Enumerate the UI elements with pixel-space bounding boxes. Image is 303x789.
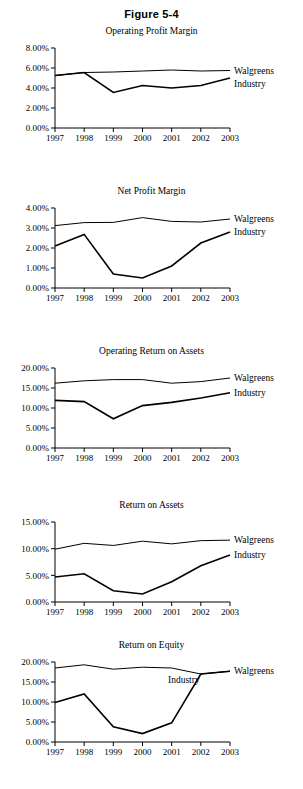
figure-label: Figure 5-4 bbox=[0, 8, 303, 20]
y-tick-label: 15.00% bbox=[21, 383, 49, 393]
y-tick-label: 6.00% bbox=[26, 63, 50, 73]
y-tick-label: 0.00% bbox=[26, 443, 50, 453]
series-label-walgreens: Walgreens bbox=[234, 214, 274, 224]
chart-title: Operating Return on Assets bbox=[0, 346, 303, 356]
y-tick-label: 2.00% bbox=[26, 103, 50, 113]
y-tick-label: 0.00% bbox=[26, 283, 50, 293]
y-tick-label: 4.00% bbox=[26, 203, 50, 213]
chart-plot: 0.00%1.00%2.00%3.00%4.00%199719981999200… bbox=[0, 200, 303, 322]
x-tick-label: 2000 bbox=[134, 133, 153, 143]
x-tick-label: 1997 bbox=[46, 453, 65, 463]
chart-plot: 0.00%5.00%10.00%15.00%20.00%199719981999… bbox=[0, 360, 303, 482]
x-tick-label: 2002 bbox=[192, 747, 210, 757]
y-tick-label: 1.00% bbox=[26, 263, 50, 273]
series-line-industry bbox=[55, 232, 230, 278]
y-tick-label: 0.00% bbox=[26, 737, 50, 747]
x-tick-label: 1997 bbox=[46, 747, 65, 757]
series-label-industry: Industry bbox=[234, 550, 266, 560]
x-tick-label: 1997 bbox=[46, 293, 65, 303]
x-tick-label: 2003 bbox=[221, 747, 240, 757]
series-label-walgreens: Walgreens bbox=[234, 66, 274, 76]
x-tick-label: 2002 bbox=[192, 453, 210, 463]
x-tick-label: 1999 bbox=[104, 453, 123, 463]
x-tick-label: 1997 bbox=[46, 607, 65, 617]
x-tick-label: 2001 bbox=[163, 133, 181, 143]
series-line-walgreens bbox=[55, 540, 230, 549]
y-tick-label: 20.00% bbox=[21, 657, 49, 667]
x-tick-label: 2002 bbox=[192, 293, 210, 303]
series-line-industry bbox=[55, 671, 230, 733]
series-label-industry: Industry bbox=[234, 227, 266, 237]
chart-plot: 0.00%5.00%10.00%15.00%199719981999200020… bbox=[0, 514, 303, 636]
chart-plot: 0.00%2.00%4.00%6.00%8.00%199719981999200… bbox=[0, 40, 303, 162]
series-line-walgreens bbox=[55, 378, 230, 383]
x-tick-label: 2003 bbox=[221, 293, 240, 303]
y-tick-label: 5.00% bbox=[26, 423, 50, 433]
y-tick-label: 8.00% bbox=[26, 43, 50, 53]
x-tick-label: 2003 bbox=[221, 133, 240, 143]
x-tick-label: 1999 bbox=[104, 293, 123, 303]
y-tick-label: 15.00% bbox=[21, 677, 49, 687]
x-tick-label: 2001 bbox=[163, 293, 181, 303]
x-tick-label: 1999 bbox=[104, 747, 123, 757]
chart-title: Return on Assets bbox=[0, 500, 303, 510]
series-label-industry: Industry bbox=[234, 388, 266, 398]
series-line-industry bbox=[55, 73, 230, 93]
x-tick-label: 2000 bbox=[134, 607, 153, 617]
x-tick-label: 2003 bbox=[221, 453, 240, 463]
y-tick-label: 4.00% bbox=[26, 83, 50, 93]
x-tick-label: 1998 bbox=[75, 293, 94, 303]
series-label-industry: Industry bbox=[234, 79, 266, 89]
y-tick-label: 2.00% bbox=[26, 243, 50, 253]
x-tick-label: 2001 bbox=[163, 747, 181, 757]
series-line-walgreens bbox=[55, 665, 230, 674]
y-tick-label: 5.00% bbox=[26, 717, 50, 727]
chart-axes bbox=[55, 48, 230, 128]
y-tick-label: 3.00% bbox=[26, 223, 50, 233]
chart-axes bbox=[55, 522, 230, 602]
x-tick-label: 2002 bbox=[192, 133, 210, 143]
x-tick-label: 1999 bbox=[104, 133, 123, 143]
series-label-walgreens: Walgreens bbox=[234, 535, 274, 545]
x-tick-label: 2000 bbox=[134, 293, 153, 303]
chart-title: Net Profit Margin bbox=[0, 186, 303, 196]
series-label-walgreens: Walgreens bbox=[234, 666, 274, 676]
y-tick-label: 0.00% bbox=[26, 597, 50, 607]
series-line-industry bbox=[55, 393, 230, 419]
x-tick-label: 2000 bbox=[134, 747, 153, 757]
chart-title: Operating Profit Margin bbox=[0, 26, 303, 36]
y-tick-label: 10.00% bbox=[21, 403, 49, 413]
x-tick-label: 1997 bbox=[46, 133, 65, 143]
x-tick-label: 1998 bbox=[75, 747, 94, 757]
y-tick-label: 10.00% bbox=[21, 697, 49, 707]
y-tick-label: 5.00% bbox=[26, 571, 50, 581]
series-line-industry bbox=[55, 555, 230, 594]
y-tick-label: 0.00% bbox=[26, 123, 50, 133]
x-tick-label: 1998 bbox=[75, 453, 94, 463]
x-tick-label: 2001 bbox=[163, 453, 181, 463]
x-tick-label: 1998 bbox=[75, 133, 94, 143]
chart-title: Return on Equity bbox=[0, 640, 303, 650]
x-tick-label: 1998 bbox=[75, 607, 94, 617]
y-tick-label: 10.00% bbox=[21, 544, 49, 554]
chart-axes bbox=[55, 208, 230, 288]
figure-page: Figure 5-4 Operating Profit Margin 0.00%… bbox=[0, 0, 303, 789]
x-tick-label: 2002 bbox=[192, 607, 210, 617]
x-tick-label: 2001 bbox=[163, 607, 181, 617]
y-tick-label: 20.00% bbox=[21, 363, 49, 373]
x-tick-label: 2000 bbox=[134, 453, 153, 463]
series-label-industry: Industry bbox=[168, 675, 200, 685]
chart-plot: 0.00%5.00%10.00%15.00%20.00%199719981999… bbox=[0, 654, 303, 776]
series-line-walgreens bbox=[55, 218, 230, 226]
x-tick-label: 1999 bbox=[104, 607, 123, 617]
x-tick-label: 2003 bbox=[221, 607, 240, 617]
y-tick-label: 15.00% bbox=[21, 517, 49, 527]
series-label-walgreens: Walgreens bbox=[234, 373, 274, 383]
